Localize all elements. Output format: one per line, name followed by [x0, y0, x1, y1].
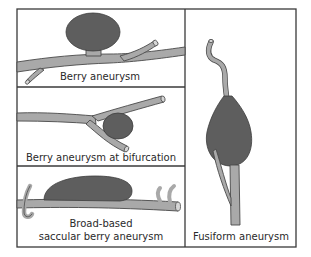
tortuous-vessel	[209, 42, 227, 100]
label-broad-based-line1: Broad-based	[69, 218, 132, 229]
berry-aneurysm-sac	[66, 13, 120, 51]
panel-fusiform-aneurysm: Fusiform aneurysm	[193, 39, 289, 242]
panel-berry-aneurysm: Berry aneurysm	[17, 13, 185, 85]
broad-based-aneurysm-sac	[44, 176, 132, 201]
bifurcation-aneurysm-sac	[103, 113, 133, 139]
aneurysm-types-figure: Berry aneurysm Berry aneurysm at bifurca…	[0, 0, 311, 257]
fusiform-aneurysm-sac	[206, 96, 251, 166]
panel-broad-based-aneurysm: Broad-based saccular berry aneurysm	[17, 176, 181, 242]
parent-vessel	[17, 113, 96, 124]
label-berry-aneurysm: Berry aneurysm	[60, 71, 140, 82]
small-branch-vessel	[169, 186, 174, 202]
label-broad-based-line2: saccular berry aneurysm	[39, 231, 163, 242]
label-bifurcation-aneurysm: Berry aneurysm at bifurcation	[26, 152, 176, 163]
vessel-end	[209, 39, 213, 42]
small-branch-vessel	[158, 188, 160, 201]
vessel-end	[176, 202, 181, 211]
panel-bifurcation-aneurysm: Berry aneurysm at bifurcation	[17, 96, 176, 163]
label-fusiform-aneurysm: Fusiform aneurysm	[193, 231, 289, 242]
parent-vessel	[230, 165, 240, 225]
